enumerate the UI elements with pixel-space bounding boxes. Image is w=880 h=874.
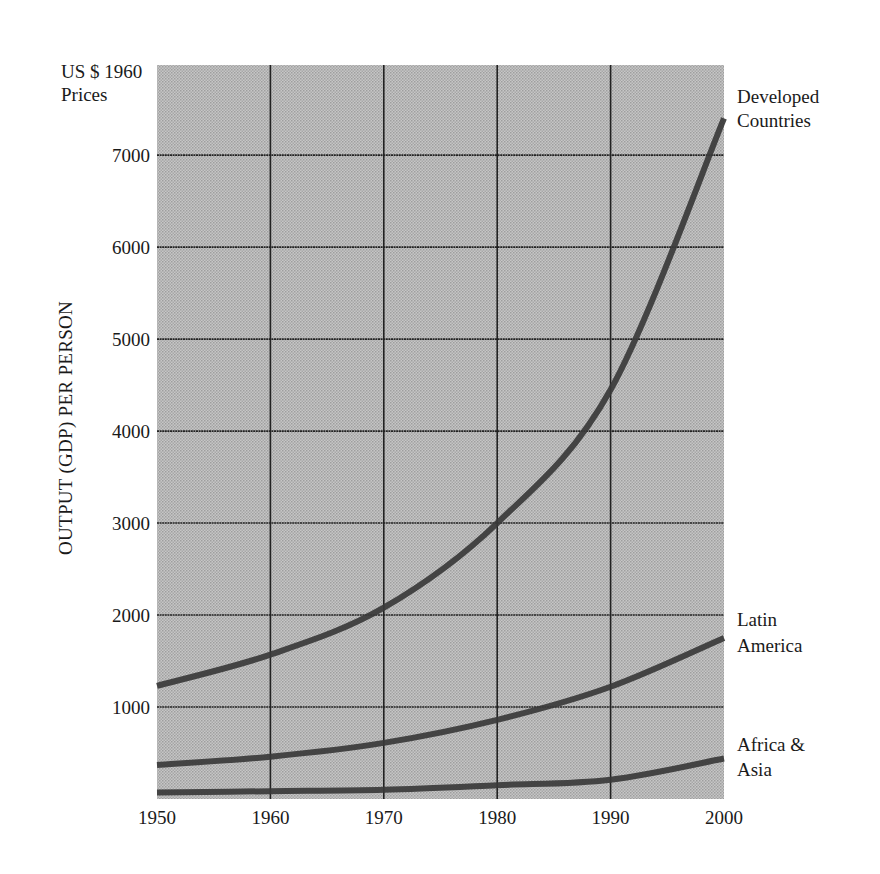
y-tick-5000: 5000 bbox=[112, 329, 150, 350]
y-tick-3000: 3000 bbox=[112, 513, 150, 534]
svg-text:Developed: Developed bbox=[737, 86, 820, 107]
series-label-latin-america: Latin America bbox=[737, 609, 803, 656]
plot-area bbox=[157, 65, 724, 799]
y-tick-2000: 2000 bbox=[112, 605, 150, 626]
series-label-africa-asia: Africa & Asia bbox=[737, 734, 805, 780]
x-tick-2000: 2000 bbox=[705, 807, 743, 828]
y-tick-7000: 7000 bbox=[112, 145, 150, 166]
svg-text:America: America bbox=[737, 635, 803, 656]
y-tick-4000: 4000 bbox=[112, 421, 150, 442]
x-tick-1990: 1990 bbox=[592, 807, 630, 828]
x-tick-1980: 1980 bbox=[478, 807, 516, 828]
x-axis-ticks: 195019601970198019902000 bbox=[138, 807, 743, 828]
y-unit-label-line1: US $ 1960 bbox=[61, 61, 142, 82]
x-tick-1950: 1950 bbox=[138, 807, 176, 828]
y-tick-6000: 6000 bbox=[112, 237, 150, 258]
svg-text:Latin: Latin bbox=[737, 609, 778, 630]
svg-text:Asia: Asia bbox=[737, 759, 772, 780]
y-axis-ticks: 1000200030004000500060007000 bbox=[112, 145, 150, 718]
x-tick-1960: 1960 bbox=[251, 807, 289, 828]
svg-text:Africa &: Africa & bbox=[737, 734, 805, 755]
y-axis-title: OUTPUT (GDP) PER PERSON bbox=[55, 301, 77, 555]
series-label-developed: Developed Countries bbox=[737, 86, 820, 131]
svg-text:Countries: Countries bbox=[737, 110, 811, 131]
gdp-per-person-chart: 1000200030004000500060007000 19501960197… bbox=[0, 0, 880, 874]
y-unit-label-line2: Prices bbox=[61, 84, 107, 105]
y-tick-1000: 1000 bbox=[112, 697, 150, 718]
x-tick-1970: 1970 bbox=[365, 807, 403, 828]
